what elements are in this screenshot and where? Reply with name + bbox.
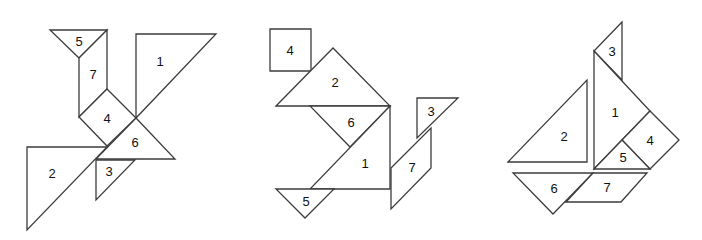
piece-label: 1 — [611, 105, 618, 120]
piece-label: 7 — [408, 160, 415, 175]
piece-label: 2 — [331, 75, 338, 90]
tangram-piece-triangle — [508, 80, 587, 162]
piece-label: 1 — [156, 54, 163, 69]
piece-label: 5 — [619, 150, 626, 165]
piece-label: 6 — [347, 115, 354, 130]
piece-label: 6 — [550, 181, 557, 196]
piece-label: 5 — [75, 34, 82, 49]
tangram-canvas: 574163242615733145267 — [0, 0, 702, 240]
piece-label: 2 — [560, 129, 567, 144]
piece-label: 3 — [105, 164, 112, 179]
tangram-piece-triangle — [136, 34, 216, 118]
piece-label: 6 — [131, 135, 138, 150]
piece-label: 5 — [302, 194, 309, 209]
piece-label: 3 — [608, 44, 615, 59]
piece-label: 2 — [48, 166, 55, 181]
figure-cat: 4261573 — [270, 29, 458, 218]
tangram-diagram: 574163242615733145267 — [0, 0, 702, 240]
piece-label: 7 — [603, 180, 610, 195]
figure-sailboat: 3145267 — [508, 22, 679, 214]
tangram-piece-triangle — [27, 147, 107, 230]
piece-label: 4 — [286, 43, 293, 58]
piece-label: 3 — [427, 104, 434, 119]
piece-label: 1 — [361, 156, 368, 171]
piece-label: 4 — [646, 133, 653, 148]
piece-label: 7 — [89, 67, 96, 82]
figure-bird: 5741632 — [27, 30, 216, 230]
piece-label: 4 — [103, 111, 110, 126]
tangram-piece-triangle — [417, 98, 458, 138]
tangram-piece-triangle — [96, 160, 135, 200]
